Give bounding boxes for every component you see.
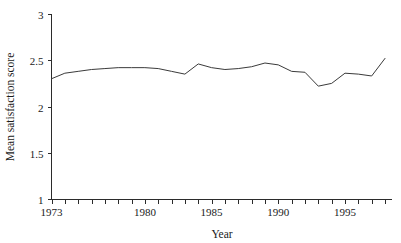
y-tick-label: 2 xyxy=(38,102,44,114)
x-axis-tick-labels: 19731980198519901995 xyxy=(41,206,357,218)
data-series-line xyxy=(52,58,386,86)
y-tick-label: 2.5 xyxy=(30,55,44,67)
y-axis-title: Mean satisfaction score xyxy=(4,53,16,162)
chart-container: 11.522.53 19731980198519901995 Year Mean… xyxy=(0,0,401,243)
x-tick-label: 1990 xyxy=(267,206,290,218)
y-axis: 11.522.53 xyxy=(30,9,52,206)
x-tick-label: 1973 xyxy=(41,206,64,218)
y-axis-tick-labels: 11.522.53 xyxy=(30,9,44,206)
y-tick-label: 3 xyxy=(38,9,44,21)
x-tick-label: 1985 xyxy=(201,206,224,218)
x-tick-label: 1995 xyxy=(334,206,357,218)
y-tick-label: 1 xyxy=(38,194,44,206)
x-axis-title: Year xyxy=(211,228,232,240)
line-chart: 11.522.53 19731980198519901995 Year Mean… xyxy=(0,0,401,243)
x-axis: 19731980198519901995 xyxy=(41,199,393,218)
y-tick-label: 1.5 xyxy=(30,148,44,160)
y-axis-ticks xyxy=(48,15,52,200)
x-tick-label: 1980 xyxy=(134,206,157,218)
